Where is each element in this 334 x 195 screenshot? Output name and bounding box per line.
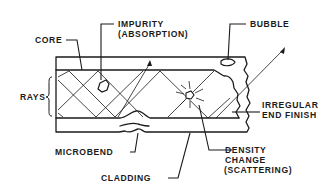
impurity-particle-icon bbox=[98, 80, 109, 92]
end-arrow-icon bbox=[280, 47, 285, 54]
label-irregular: IRREGULAR bbox=[262, 100, 318, 110]
label-microbend: MICROBEND bbox=[55, 147, 113, 157]
label-core: CORE bbox=[35, 35, 62, 45]
rays-brace bbox=[46, 77, 52, 116]
label-end-finish: END FINISH bbox=[262, 110, 317, 120]
label-change: CHANGE bbox=[225, 155, 266, 165]
label-scattering: (SCATTERING) bbox=[224, 165, 292, 175]
escape-arrow-icon bbox=[147, 60, 152, 66]
microbend-bump bbox=[120, 123, 149, 126]
label-density: DENSITY bbox=[225, 145, 266, 155]
label-impurity: IMPURITY bbox=[118, 19, 164, 29]
label-bubble: BUBBLE bbox=[250, 19, 289, 29]
cladding-outline bbox=[56, 57, 250, 132]
light-rays bbox=[58, 50, 283, 118]
label-absorption: (ABSORPTION) bbox=[118, 29, 188, 39]
label-rays: RAYS bbox=[20, 92, 46, 102]
label-cladding: CLADDING bbox=[101, 173, 151, 183]
core-top-line bbox=[56, 70, 240, 118]
